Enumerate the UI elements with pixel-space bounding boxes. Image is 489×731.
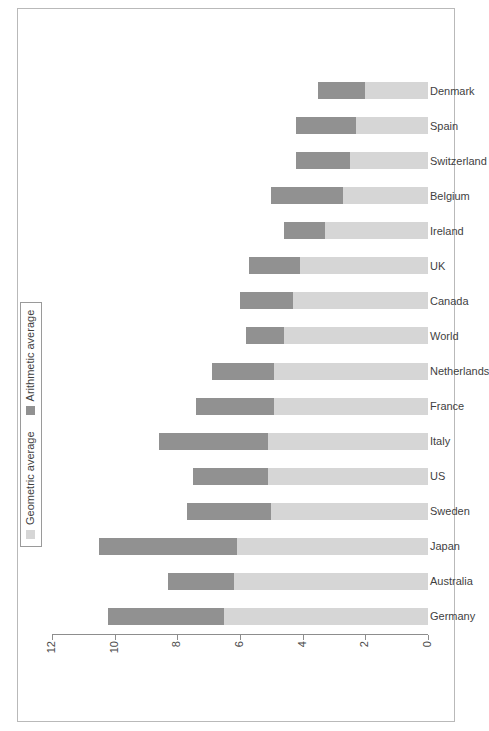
stacked-bar[interactable]: France [196, 398, 428, 415]
stacked-bar[interactable]: Australia [168, 573, 428, 590]
category-label-switzerland: Switzerland [430, 156, 487, 167]
bar-segment-geometric [237, 538, 428, 555]
bar-segment-arithmetic [168, 573, 234, 590]
category-label-belgium: Belgium [430, 191, 470, 202]
axis-tick-label: 8 [170, 641, 183, 665]
stacked-bar[interactable]: Netherlands [212, 363, 428, 380]
stacked-bar[interactable]: US [193, 468, 428, 485]
bar-group: GermanyAustraliaJapanSwedenUSItalyFrance… [52, 73, 428, 634]
page-frame: Geometric average Arithmetic average 024… [17, 8, 455, 722]
bar-segment-geometric [300, 257, 428, 274]
bar-segment-arithmetic [271, 187, 343, 204]
category-label-us: US [430, 471, 445, 482]
axis-tick [303, 635, 304, 640]
category-label-sweden: Sweden [430, 506, 470, 517]
bar-segment-geometric [271, 503, 428, 520]
axis-tick [365, 635, 366, 640]
category-label-uk: UK [430, 261, 445, 272]
bar-slot: Spain [52, 108, 428, 143]
category-label-italy: Italy [430, 436, 450, 447]
bar-segment-arithmetic [296, 152, 349, 169]
bar-segment-geometric [234, 573, 428, 590]
axis-tick-label: 4 [296, 641, 309, 665]
bar-segment-geometric [293, 292, 428, 309]
legend-label-arithmetic: Arithmetic average [25, 310, 36, 402]
bar-slot: Canada [52, 283, 428, 318]
bar-segment-arithmetic [318, 82, 365, 99]
bar-slot: Belgium [52, 178, 428, 213]
axis-tick [52, 635, 53, 640]
stacked-bar[interactable]: Japan [99, 538, 428, 555]
axis-tick [115, 635, 116, 640]
bar-segment-geometric [284, 327, 428, 344]
bar-slot: Sweden [52, 494, 428, 529]
bar-slot: Australia [52, 564, 428, 599]
stacked-bar[interactable]: Ireland [284, 222, 428, 239]
bar-slot: Japan [52, 529, 428, 564]
bar-segment-arithmetic [99, 538, 237, 555]
bar-segment-geometric [356, 117, 428, 134]
bar-slot: UK [52, 248, 428, 283]
bar-chart: Geometric average Arithmetic average 024… [18, 9, 456, 723]
category-label-japan: Japan [430, 541, 460, 552]
bar-segment-arithmetic [240, 292, 293, 309]
bar-segment-arithmetic [249, 257, 299, 274]
category-label-australia: Australia [430, 576, 473, 587]
axis-tick [177, 635, 178, 640]
stacked-bar[interactable]: Spain [296, 117, 428, 134]
square-swatch-icon [26, 530, 35, 539]
bar-segment-arithmetic [212, 363, 275, 380]
stacked-bar[interactable]: Canada [240, 292, 428, 309]
bar-segment-arithmetic [193, 468, 268, 485]
bar-segment-geometric [274, 398, 428, 415]
square-swatch-icon [26, 406, 35, 415]
bar-slot: Germany [52, 599, 428, 634]
axis-tick-label: 6 [233, 641, 246, 665]
chart-legend: Geometric average Arithmetic average [20, 302, 42, 547]
bar-segment-geometric [365, 82, 428, 99]
bar-segment-arithmetic [284, 222, 325, 239]
bar-segment-geometric [224, 608, 428, 625]
category-label-denmark: Denmark [430, 86, 475, 97]
category-label-germany: Germany [430, 611, 475, 622]
bar-segment-geometric [343, 187, 428, 204]
rotated-figure-stage: Geometric average Arithmetic average 024… [18, 9, 456, 723]
plot-area: 024681012 GermanyAustraliaJapanSwedenUSI… [52, 73, 428, 635]
category-label-france: France [430, 401, 464, 412]
axis-tick-label: 10 [108, 641, 121, 665]
bar-segment-geometric [325, 222, 428, 239]
legend-label-geometric: Geometric average [25, 431, 36, 525]
bar-segment-geometric [274, 363, 428, 380]
bar-slot: Ireland [52, 213, 428, 248]
stacked-bar[interactable]: Denmark [318, 82, 428, 99]
bar-segment-arithmetic [196, 398, 274, 415]
bar-slot: Denmark [52, 73, 428, 108]
legend-item-geometric: Geometric average [25, 431, 36, 539]
stacked-bar[interactable]: Italy [159, 433, 428, 450]
category-label-canada: Canada [430, 296, 469, 307]
category-label-spain: Spain [430, 121, 458, 132]
stacked-bar[interactable]: Sweden [187, 503, 428, 520]
stacked-bar[interactable]: Belgium [271, 187, 428, 204]
axis-tick-label: 2 [358, 641, 371, 665]
bar-segment-geometric [268, 433, 428, 450]
stacked-bar[interactable]: UK [249, 257, 428, 274]
legend-item-arithmetic: Arithmetic average [25, 310, 36, 416]
bar-slot: World [52, 318, 428, 353]
stacked-bar[interactable]: World [246, 327, 428, 344]
stacked-bar[interactable]: Switzerland [296, 152, 428, 169]
category-label-world: World [430, 331, 459, 342]
bar-segment-geometric [268, 468, 428, 485]
stacked-bar[interactable]: Germany [108, 608, 428, 625]
axis-tick [240, 635, 241, 640]
bar-segment-geometric [350, 152, 428, 169]
axis-tick-label: 12 [45, 641, 58, 665]
category-label-ireland: Ireland [430, 226, 464, 237]
bar-segment-arithmetic [159, 433, 269, 450]
bar-segment-arithmetic [187, 503, 272, 520]
bar-segment-arithmetic [108, 608, 224, 625]
bar-slot: France [52, 389, 428, 424]
category-label-netherlands: Netherlands [430, 366, 489, 377]
bar-segment-arithmetic [246, 327, 284, 344]
axis-tick-label: 0 [421, 641, 434, 665]
